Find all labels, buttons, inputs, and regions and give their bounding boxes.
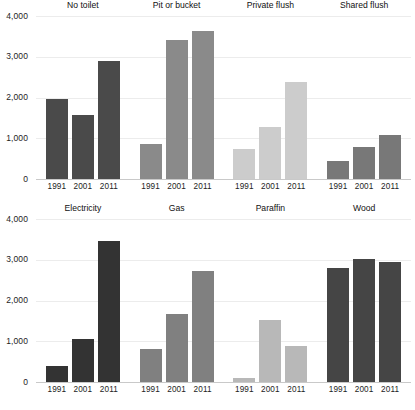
bar [327,161,349,179]
bar [72,115,94,179]
panel-shared-flush: Shared flush199120012011 [317,16,411,179]
panel-title: No toilet [36,0,130,10]
bar [46,99,68,179]
chart-row-top: 01,0002,0003,0004,000No toilet1991200120… [0,0,415,205]
panel-electricity: Electricity199120012011 [36,219,130,382]
bar-group [36,16,130,179]
bar-group [36,219,130,382]
bar-group [130,219,224,382]
y-axis-tick-label: 3,000 [0,255,28,264]
panel-title: Private flush [224,0,318,10]
bar [46,366,68,382]
bar [166,314,188,382]
x-axis-tick-label: 2011 [279,182,313,191]
panel-title: Wood [317,203,411,213]
bar [353,147,375,179]
panel-no-toilet: No toilet199120012011 [36,16,130,179]
bar [140,349,162,382]
bar [140,144,162,179]
y-axis-tick-label: 1,000 [0,337,28,346]
bar-group [317,219,411,382]
y-axis-tick-label: 3,000 [0,52,28,61]
axis-baseline [36,179,411,180]
y-axis-tick-label: 2,000 [0,93,28,102]
x-axis-tick-label: 2011 [186,385,220,394]
y-axis-tick-label: 1,000 [0,134,28,143]
y-axis-tick-label: 0 [0,378,28,387]
bar [379,262,401,382]
panel-title: Electricity [36,203,130,213]
bar [72,339,94,382]
bar-group [224,219,318,382]
axis-baseline [36,382,411,383]
panel-title: Paraffin [224,203,318,213]
bar [327,268,349,383]
bar [233,149,255,179]
panel-pit-or-bucket: Pit or bucket199120012011 [130,16,224,179]
panel-wood: Wood199120012011 [317,219,411,382]
bar [98,61,120,179]
bar-group [224,16,318,179]
bar [192,31,214,179]
plot-area-bottom: 01,0002,0003,0004,000Electricity19912001… [36,219,411,382]
bar-group [317,16,411,179]
panel-title: Gas [130,203,224,213]
panel-title: Pit or bucket [130,0,224,10]
y-axis-tick-label: 0 [0,175,28,184]
y-axis-tick-label: 4,000 [0,215,28,224]
panel-private-flush: Private flush199120012011 [224,16,318,179]
bar [285,82,307,179]
bar [233,378,255,382]
bar [379,135,401,179]
panel-title: Shared flush [317,0,411,10]
x-axis-tick-label: 2011 [373,182,407,191]
bar [259,320,281,382]
panel-paraffin: Paraffin199120012011 [224,219,318,382]
x-axis-tick-label: 2011 [92,385,126,394]
x-axis-tick-label: 2011 [279,385,313,394]
bar [192,271,214,382]
plot-area-top: 01,0002,0003,0004,000No toilet1991200120… [36,16,411,179]
bar-chart-figure: 01,0002,0003,0004,000No toilet1991200120… [0,0,415,410]
bar [166,40,188,179]
x-axis-tick-label: 2011 [373,385,407,394]
bar-group [130,16,224,179]
y-axis-tick-label: 2,000 [0,296,28,305]
chart-row-bottom: 01,0002,0003,0004,000Electricity19912001… [0,203,415,408]
bar [259,127,281,179]
bar [353,259,375,382]
bar [285,346,307,382]
y-axis-tick-label: 4,000 [0,12,28,21]
panel-gas: Gas199120012011 [130,219,224,382]
x-axis-tick-label: 2011 [186,182,220,191]
x-axis-tick-label: 2011 [92,182,126,191]
bar [98,241,120,382]
